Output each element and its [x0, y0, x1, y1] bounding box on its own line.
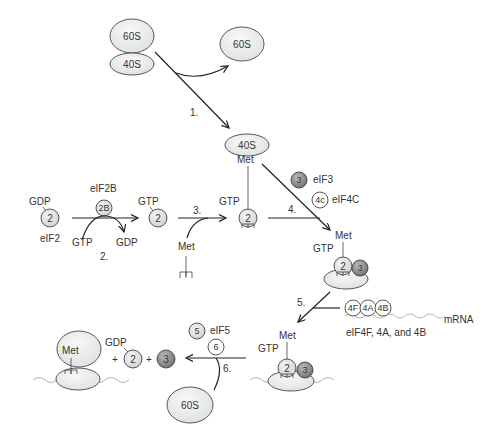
- eif4-group-label: eIF4F, 4A, and 4B: [346, 327, 426, 338]
- svg-text:40S: 40S: [238, 140, 256, 151]
- free-60s: 60S: [220, 27, 264, 61]
- svg-text:2: 2: [155, 213, 161, 224]
- gtp-in-label: GTP: [72, 237, 93, 248]
- svg-text:2B: 2B: [98, 203, 109, 213]
- step-6: 6.: [223, 363, 231, 374]
- complex-43s: Met GTP 2 3: [313, 230, 368, 289]
- svg-text:4F: 4F: [348, 303, 359, 313]
- svg-text:3: 3: [163, 354, 169, 365]
- svg-text:2: 2: [245, 213, 251, 224]
- step-2: 2.: [100, 251, 108, 262]
- eif2b-label: eIF2B: [90, 183, 117, 194]
- joining-60s: 60S: [167, 387, 213, 423]
- eif2-gtp-factor: 2: [149, 209, 167, 227]
- eif2b-factor: 2B: [96, 200, 112, 216]
- gdp-label: GDP: [29, 196, 51, 207]
- eif4c-label: eIF4C: [332, 194, 359, 205]
- released-eif3: 3: [157, 350, 175, 368]
- svg-text:2: 2: [47, 213, 53, 224]
- mrna-label: mRNA: [444, 314, 474, 325]
- step-5: 5.: [297, 297, 305, 308]
- eif4c-factor: 4c: [312, 192, 328, 208]
- gdp-released-label: GDP: [105, 337, 127, 348]
- eif4-factors: 4F 4A 4B: [345, 300, 391, 316]
- ternary-complex: 2: [239, 209, 257, 228]
- eif5-factor: 5: [189, 323, 205, 339]
- released-eif2: 2: [124, 350, 142, 368]
- svg-text:3: 3: [357, 263, 362, 273]
- plus-2: +: [146, 354, 152, 365]
- svg-text:3: 3: [296, 175, 301, 185]
- label-60s: 60S: [123, 31, 141, 42]
- svg-text:6: 6: [213, 342, 218, 352]
- ribosome-80s: 60S 40S: [110, 19, 154, 75]
- gtp-label-2: GTP: [138, 196, 159, 207]
- gtp-label-ternary: GTP: [219, 196, 240, 207]
- arrow-60s-release: [176, 66, 228, 76]
- svg-text:Met: Met: [335, 230, 352, 241]
- svg-text:2: 2: [340, 261, 346, 272]
- svg-text:3: 3: [302, 365, 307, 375]
- svg-text:4A: 4A: [362, 303, 373, 313]
- step-4: 4.: [288, 204, 296, 215]
- eif5-label: eIF5: [210, 325, 230, 336]
- arrow-60s-in: [214, 358, 220, 390]
- eif2-label: eIF2: [40, 233, 60, 244]
- svg-text:GTP: GTP: [258, 343, 279, 354]
- svg-text:4B: 4B: [377, 303, 388, 313]
- svg-text:GTP: GTP: [313, 243, 334, 254]
- mrna-strand: [345, 314, 445, 318]
- svg-text:60S: 60S: [233, 39, 251, 50]
- svg-text:2: 2: [130, 354, 136, 365]
- svg-text:2: 2: [284, 363, 290, 374]
- step-1: 1.: [190, 107, 198, 118]
- svg-text:60S: 60S: [181, 400, 199, 411]
- step-3: 3.: [193, 205, 201, 216]
- svg-text:4c: 4c: [315, 195, 325, 205]
- plus-1: +: [112, 354, 118, 365]
- eif6-factor: 6: [208, 339, 224, 355]
- arrow-met-in: [187, 218, 208, 238]
- trna-icon: [180, 256, 192, 278]
- free-40s: 40S: [225, 134, 269, 156]
- eif2-factor: 2: [41, 209, 59, 227]
- label-40s: 40S: [123, 59, 141, 70]
- met-label-ternary: Met: [237, 154, 254, 165]
- eif3-label: eIF3: [313, 174, 333, 185]
- complex-48s: Met GTP 2 3: [250, 330, 334, 391]
- svg-text:5: 5: [194, 326, 199, 336]
- initiation-diagram: 60S 40S 60S 1. 40S GDP 2 eIF2 eIF2B 2B G…: [0, 0, 501, 439]
- svg-text:Met: Met: [279, 330, 296, 341]
- svg-text:Met: Met: [62, 345, 79, 356]
- gdp-out-label: GDP: [116, 237, 138, 248]
- eif3-factor: 3: [291, 172, 307, 188]
- met-label: Met: [178, 241, 195, 252]
